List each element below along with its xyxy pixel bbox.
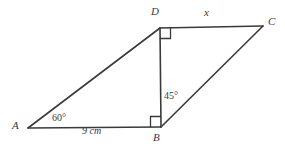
vertex-label-D: D <box>151 6 159 17</box>
segment-AD <box>28 28 160 128</box>
segment-BC <box>161 26 263 127</box>
right-angle-at-B <box>151 117 161 127</box>
geometry-figure: A B C D 60° 45° 9 cm x <box>0 0 285 147</box>
segment-DB <box>160 28 161 127</box>
side-length-label-9cm: 9 cm <box>82 126 101 136</box>
side-length-label-x: x <box>204 7 209 18</box>
angle-label-45-degrees: 45° <box>164 91 178 101</box>
segment-DC <box>160 26 263 28</box>
figure-canvas <box>0 0 285 147</box>
vertex-label-C: C <box>268 16 275 27</box>
vertex-label-A: A <box>12 120 19 131</box>
vertex-label-B: B <box>153 132 160 143</box>
right-angle-at-D <box>161 29 171 39</box>
angle-label-60-degrees: 60° <box>52 113 66 123</box>
